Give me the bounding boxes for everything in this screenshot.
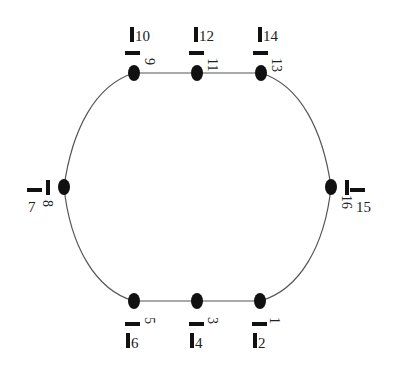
node-top-right[interactable] xyxy=(255,65,267,81)
label-9: 9 xyxy=(142,58,157,65)
label-16: 16 xyxy=(339,195,354,209)
signal-vertical-icon xyxy=(46,180,50,195)
node-bottom-left[interactable] xyxy=(128,293,140,309)
node-bottom-center[interactable] xyxy=(191,293,203,309)
node-left[interactable] xyxy=(58,179,70,195)
signal-vertical-icon xyxy=(253,333,257,348)
label-12: 12 xyxy=(199,28,214,44)
track-loop-diagram: 10 12 14 9 11 13 5 3 1 6 4 2 7 8 15 16 xyxy=(0,0,397,374)
signal-vertical-icon xyxy=(130,27,134,42)
signal-horizontal-icon xyxy=(189,322,204,326)
signal-vertical-icon xyxy=(345,180,349,195)
label-14: 14 xyxy=(263,28,279,44)
signal-vertical-icon xyxy=(190,333,194,348)
left-curve xyxy=(64,73,134,301)
label-7: 7 xyxy=(28,199,36,215)
right-curve xyxy=(260,73,331,301)
track-lines xyxy=(64,73,331,301)
signal-horizontal-icon xyxy=(125,51,140,55)
label-10: 10 xyxy=(135,28,150,44)
signal-horizontal-icon xyxy=(189,51,204,55)
label-1: 1 xyxy=(267,317,282,324)
nodes xyxy=(58,65,337,309)
node-top-left[interactable] xyxy=(128,65,140,81)
signal-horizontal-icon xyxy=(27,188,42,192)
signal-horizontal-icon xyxy=(350,188,365,192)
signal-horizontal-icon xyxy=(253,51,268,55)
node-right[interactable] xyxy=(325,179,337,195)
node-top-center[interactable] xyxy=(191,65,203,81)
label-5: 5 xyxy=(142,317,157,324)
signal-vertical-icon xyxy=(194,27,198,42)
signal-vertical-icon xyxy=(126,333,130,348)
label-6: 6 xyxy=(131,335,139,351)
label-3: 3 xyxy=(205,317,220,324)
label-8: 8 xyxy=(40,200,55,207)
signal-vertical-icon xyxy=(258,27,262,42)
signal-horizontal-icon xyxy=(125,322,140,326)
label-11: 11 xyxy=(205,58,220,71)
signal-horizontal-icon xyxy=(252,322,267,326)
label-4: 4 xyxy=(195,335,203,351)
label-2: 2 xyxy=(258,335,266,351)
label-13: 13 xyxy=(269,58,284,72)
label-15: 15 xyxy=(356,199,371,215)
node-bottom-right[interactable] xyxy=(254,293,266,309)
